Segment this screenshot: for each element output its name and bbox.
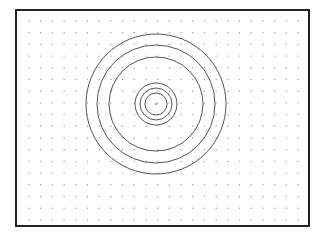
grid-dot [227,91,228,92]
grid-dot [99,172,100,173]
grid-dot [99,44,100,45]
grid-dot [110,219,111,220]
concentric-circles-diagram [0,0,323,236]
grid-dot [145,219,146,220]
grid-dot [251,126,252,127]
grid-dot [227,55,228,56]
grid-dot [40,20,41,21]
grid-dot [145,114,146,115]
grid-dot [180,184,181,185]
grid-dot [192,114,193,115]
grid-dot [87,126,88,127]
grid-dot [180,20,181,21]
grid-dot [63,20,64,21]
grid-dot [63,114,64,115]
grid-dot [262,172,263,173]
grid-dot [297,67,298,68]
grid-dot [110,208,111,209]
grid-dot [145,79,146,80]
grid-dot [40,55,41,56]
grid-dot [52,161,53,162]
grid-dot [63,172,64,173]
grid-dot [110,126,111,127]
grid-dot [87,79,88,80]
grid-dot [216,172,217,173]
grid-dot [99,184,100,185]
grid-dot [63,196,64,197]
grid-dot [52,114,53,115]
grid-dot [134,20,135,21]
grid-dot [40,32,41,33]
grid-dot [52,196,53,197]
grid-dot [40,137,41,138]
grid-dot [145,20,146,21]
grid-dot [216,79,217,80]
grid-dot [262,79,263,80]
grid-dot [75,161,76,162]
grid-dot [204,208,205,209]
grid-dot [169,32,170,33]
grid-dot [239,79,240,80]
grid-dot [169,55,170,56]
grid-dot [87,196,88,197]
grid-dot [52,208,53,209]
grid-dot [157,32,158,33]
grid-dot [180,67,181,68]
grid-dot [145,126,146,127]
grid-dot [251,91,252,92]
grid-dot [274,219,275,220]
grid-dot [28,184,29,185]
grid-dot [28,55,29,56]
grid-dot [169,196,170,197]
grid-dot [297,149,298,150]
grid-dot [40,208,41,209]
grid-dot [239,55,240,56]
grid-dot [40,67,41,68]
grid-dot [262,184,263,185]
grid-dot [192,20,193,21]
grid-dot [99,20,100,21]
grid-dot [110,184,111,185]
grid-dot [99,196,100,197]
grid-dot [286,55,287,56]
grid-dot [262,114,263,115]
grid-dot [216,55,217,56]
grid-dot [99,114,100,115]
grid-dot [122,208,123,209]
grid-dot [99,149,100,150]
grid-dot [52,184,53,185]
grid-dot [99,161,100,162]
grid-dot [134,196,135,197]
grid-dot [262,32,263,33]
grid-dot [63,91,64,92]
grid-dot [297,126,298,127]
grid-dot [63,67,64,68]
grid-dot [134,149,135,150]
grid-dot [28,91,29,92]
grid-dot [63,149,64,150]
grid-dot [75,172,76,173]
grid-dot [251,149,252,150]
grid-dot [157,184,158,185]
grid-dot [87,149,88,150]
grid-dot [274,44,275,45]
grid-dot [262,126,263,127]
grid-dot [28,67,29,68]
grid-dot [145,137,146,138]
grid-dot [169,184,170,185]
grid-dot [227,79,228,80]
grid-dot [134,172,135,173]
grid-dot [28,219,29,220]
grid-dot [286,196,287,197]
grid-dot [204,196,205,197]
grid-dot [63,102,64,103]
grid-dot [262,20,263,21]
grid-dot [87,219,88,220]
grid-dot [169,137,170,138]
grid-dot [134,208,135,209]
grid-dot [75,126,76,127]
grid-dot [262,55,263,56]
grid-dot [251,102,252,103]
grid-dot [75,137,76,138]
grid-dot [239,149,240,150]
